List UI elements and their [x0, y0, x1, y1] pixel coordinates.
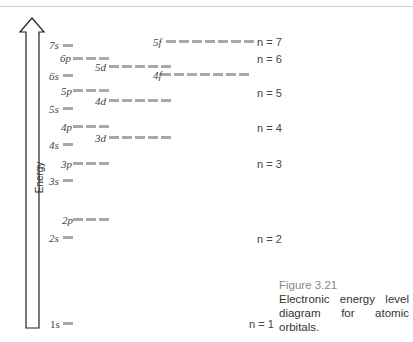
shell-label-n4: n = 4 — [257, 123, 282, 134]
shell-label-n1: n = 1 — [249, 319, 274, 330]
orbital-label-6p: 6p — [60, 53, 71, 64]
orbital-label-1s: 1s — [50, 319, 60, 330]
orbital-label-4d: 4d — [95, 96, 106, 107]
energy-axis-label: Energy — [34, 148, 45, 208]
orbital-label-3d: 3d — [95, 133, 106, 144]
figure-number: Figure 3.21 — [279, 278, 409, 292]
orbital-label-5s: 5s — [49, 104, 59, 115]
shell-label-n6: n = 6 — [257, 54, 282, 65]
orbital-label-4f: 4f — [153, 70, 162, 81]
shell-label-n2: n = 2 — [257, 234, 282, 245]
orbital-label-3s: 3s — [49, 176, 59, 187]
orbital-label-7s: 7s — [49, 40, 59, 51]
orbital-label-2s: 2s — [49, 233, 59, 244]
figure-caption-text: Electronic energy level diagram for atom… — [279, 292, 409, 334]
orbital-label-2p: 2p — [62, 215, 73, 226]
shell-label-n5: n = 5 — [257, 88, 282, 99]
orbital-label-6s: 6s — [49, 71, 59, 82]
orbital-label-4s: 4s — [49, 140, 59, 151]
orbital-label-5f: 5f — [153, 37, 162, 48]
orbital-label-4p: 4p — [61, 122, 72, 133]
orbital-label-3p: 3p — [61, 159, 72, 170]
orbital-bars — [63, 40, 254, 325]
figure-caption: Figure 3.21 Electronic energy level diag… — [279, 278, 409, 334]
orbital-label-5d: 5d — [95, 62, 106, 73]
orbital-label-5p: 5p — [61, 86, 72, 97]
shell-label-n7: n = 7 — [257, 37, 282, 48]
shell-label-n3: n = 3 — [257, 159, 282, 170]
